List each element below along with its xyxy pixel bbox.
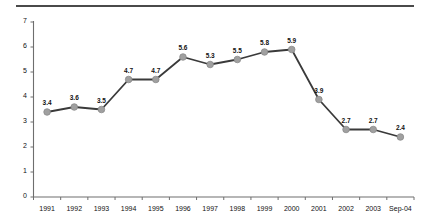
y-axis-tick-label: 5 bbox=[13, 67, 27, 74]
data-point-label: 3.5 bbox=[97, 97, 106, 104]
y-axis-tick-label: 2 bbox=[13, 142, 27, 149]
data-point-marker bbox=[370, 126, 377, 133]
x-axis-tick-label: 1991 bbox=[39, 205, 55, 212]
y-axis-tick-label: 4 bbox=[13, 92, 27, 99]
data-point-label: 2.4 bbox=[396, 124, 405, 131]
data-point-label: 4.7 bbox=[151, 67, 160, 74]
data-point-marker bbox=[98, 106, 105, 113]
data-point-marker bbox=[343, 126, 350, 133]
data-point-label: 5.9 bbox=[287, 37, 296, 44]
x-axis-tick-label: Sep-04 bbox=[389, 205, 412, 212]
x-axis-tick-label: 2003 bbox=[365, 205, 381, 212]
series-line bbox=[47, 50, 400, 138]
x-axis-tick-label: 1994 bbox=[121, 205, 137, 212]
data-point-marker bbox=[44, 109, 51, 116]
data-point-label: 5.5 bbox=[233, 47, 242, 54]
data-point-marker bbox=[261, 49, 268, 56]
x-axis-tick-label: 1992 bbox=[66, 205, 82, 212]
data-point-marker bbox=[288, 46, 295, 53]
axis-ticks bbox=[31, 22, 415, 200]
data-point-label: 3.9 bbox=[314, 87, 323, 94]
data-point-marker bbox=[234, 56, 241, 63]
data-point-marker bbox=[316, 96, 323, 103]
data-point-marker bbox=[180, 54, 187, 61]
data-point-marker bbox=[153, 76, 160, 83]
data-point-label: 5.6 bbox=[178, 44, 187, 51]
x-axis-tick-label: 1999 bbox=[257, 205, 273, 212]
y-axis-tick-label: 1 bbox=[13, 167, 27, 174]
data-point-label: 5.8 bbox=[260, 39, 269, 46]
data-point-label: 2.7 bbox=[369, 117, 378, 124]
data-point-label: 5.3 bbox=[206, 52, 215, 59]
y-axis-tick-label: 0 bbox=[13, 192, 27, 199]
x-axis-tick-label: 2001 bbox=[311, 205, 327, 212]
data-point-marker bbox=[207, 61, 214, 68]
data-point-marker bbox=[71, 104, 78, 111]
x-axis-tick-label: 2002 bbox=[338, 205, 354, 212]
y-axis-tick-label: 3 bbox=[13, 117, 27, 124]
x-axis-tick-label: 2000 bbox=[284, 205, 300, 212]
y-axis-tick-label: 6 bbox=[13, 42, 27, 49]
x-axis-tick-label: 1996 bbox=[175, 205, 191, 212]
line-chart bbox=[0, 0, 430, 223]
data-series-line bbox=[47, 50, 400, 138]
data-point-label: 3.4 bbox=[43, 99, 52, 106]
x-axis-tick-label: 1993 bbox=[94, 205, 110, 212]
data-point-markers bbox=[44, 46, 404, 140]
data-point-label: 3.6 bbox=[70, 94, 79, 101]
y-axis-tick-label: 7 bbox=[13, 17, 27, 24]
x-axis-tick-label: 1998 bbox=[230, 205, 246, 212]
x-axis-tick-label: 1997 bbox=[202, 205, 218, 212]
data-point-label: 4.7 bbox=[124, 67, 133, 74]
data-point-label: 2.7 bbox=[342, 117, 351, 124]
data-point-marker bbox=[125, 76, 132, 83]
x-axis-tick-label: 1995 bbox=[148, 205, 164, 212]
data-point-marker bbox=[397, 134, 404, 141]
